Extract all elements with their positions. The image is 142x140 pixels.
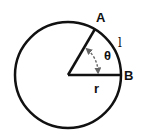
label-angle-theta: θ bbox=[104, 48, 111, 63]
label-arc-length: l bbox=[118, 36, 122, 50]
angle-arc-arrow bbox=[88, 50, 98, 71]
label-point-b: B bbox=[124, 68, 133, 83]
circle-diagram: A B θ l r bbox=[0, 0, 142, 140]
radius-line-oa bbox=[68, 29, 95, 75]
label-radius: r bbox=[94, 81, 99, 96]
label-point-a: A bbox=[96, 10, 106, 25]
